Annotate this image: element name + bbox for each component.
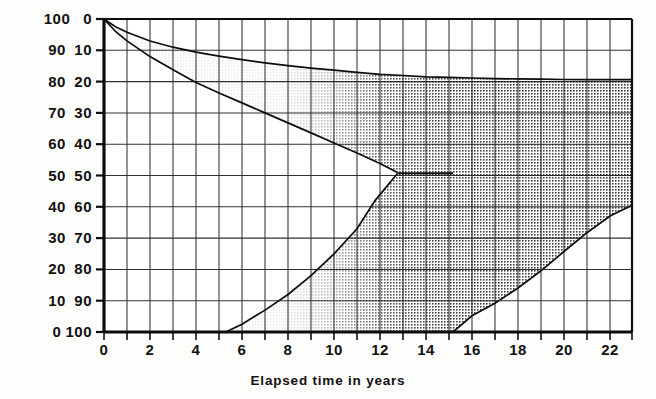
y-axis-inner-labels: 0 10 20 30 40 50 60 70 80 90 100: [65, 10, 92, 340]
y-outer-tick-label: 20: [48, 260, 66, 277]
x-tick-label: 12: [371, 341, 389, 358]
x-tick-label: 2: [146, 341, 155, 358]
x-axis-title: Elapsed time in years: [251, 373, 406, 388]
y-outer-tick-label: 60: [48, 135, 66, 152]
y-inner-tick-label: 40: [74, 135, 92, 152]
y-inner-tick-label: 60: [74, 198, 92, 215]
chart-canvas: 100 90 80 70 60 50 40 30 20 10 0 0 10 20…: [0, 0, 656, 399]
x-tick-label: 16: [463, 341, 481, 358]
y-outer-tick-label: 90: [48, 41, 66, 58]
x-axis-labels: 0 2 4 6 8 10 12 14 16 18 20 22: [100, 341, 619, 358]
x-tick-label: 14: [417, 341, 435, 358]
x-tick-label: 4: [192, 341, 201, 358]
x-tick-label: 6: [238, 341, 247, 358]
x-tick-label: 20: [555, 341, 573, 358]
y-inner-tick-label: 10: [74, 41, 92, 58]
y-outer-tick-label: 70: [48, 104, 66, 121]
x-tick-label: 18: [509, 341, 527, 358]
y-outer-tick-label: 30: [48, 229, 66, 246]
y-inner-tick-label: 20: [74, 73, 92, 90]
x-tick-label: 0: [100, 341, 109, 358]
y-outer-tick-label: 40: [48, 198, 66, 215]
x-tick-label: 22: [601, 341, 619, 358]
y-inner-tick-label: 50: [74, 167, 92, 184]
y-inner-tick-label: 70: [74, 229, 92, 246]
y-outer-tick-label: 10: [48, 292, 66, 309]
x-tick-label: 10: [325, 341, 343, 358]
y-inner-tick-label: 100: [65, 323, 92, 340]
y-outer-tick-label: 50: [48, 167, 66, 184]
chart-figure: 100 90 80 70 60 50 40 30 20 10 0 0 10 20…: [0, 0, 656, 399]
y-outer-tick-label: 100: [44, 10, 71, 27]
y-inner-tick-label: 80: [74, 260, 92, 277]
y-outer-tick-label: 0: [53, 323, 62, 340]
y-outer-tick-label: 80: [48, 73, 66, 90]
y-inner-tick-label: 0: [83, 10, 92, 27]
y-axis-outer-labels: 100 90 80 70 60 50 40 30 20 10 0: [44, 10, 71, 340]
y-inner-tick-label: 90: [74, 292, 92, 309]
y-inner-tick-label: 30: [74, 104, 92, 121]
x-tick-label: 8: [284, 341, 293, 358]
